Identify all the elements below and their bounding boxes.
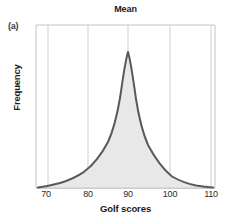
x-tick-label-110: 110 (194, 189, 228, 199)
x-tick-label-90: 90 (111, 189, 145, 199)
x-axis-title: Golf scores (36, 203, 215, 214)
x-tick-label-100: 100 (153, 189, 187, 199)
x-tick-label-80: 80 (71, 189, 105, 199)
figure-panel-a: (a) Mean Frequency 70 80 90 100 110 Golf… (0, 0, 233, 224)
x-tick-label-70: 70 (29, 189, 63, 199)
distribution-fill-area (38, 52, 213, 188)
